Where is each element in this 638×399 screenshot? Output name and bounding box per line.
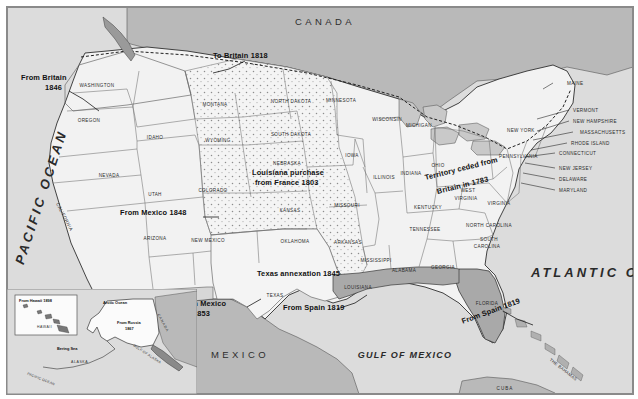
map-frame: CANADA MEXICO PACIFIC OCEAN ATLANTIC OCE…	[6, 6, 634, 395]
historical-map: CANADA MEXICO PACIFIC OCEAN ATLANTIC OCE…	[0, 0, 638, 399]
